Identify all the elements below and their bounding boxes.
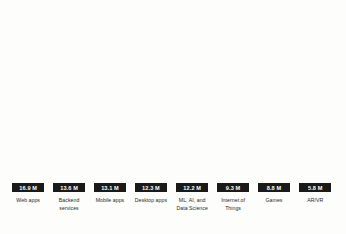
bar-value-label: 13.6 M — [60, 186, 78, 192]
bar[interactable]: 8.8 M — [258, 183, 290, 192]
category-label-line: Desktop apps — [129, 196, 172, 204]
category-label-line: Data Science — [171, 204, 214, 212]
bar-group: 8.8 M — [258, 183, 290, 192]
category-label-line: Things — [212, 204, 255, 212]
bar-group: 9.3 M — [217, 183, 249, 192]
bar-value-label: 16.9 M — [19, 186, 37, 192]
bar[interactable]: 13.6 M — [53, 183, 85, 192]
category-label-mobile-apps: Mobile apps — [89, 196, 132, 204]
bar-group: 13.1 M — [94, 183, 126, 192]
category-label-line: Backend — [48, 196, 91, 204]
bar[interactable]: 5.8 M — [299, 183, 331, 192]
bar[interactable]: 13.1 M — [94, 183, 126, 192]
bar-value-label: 9.3 M — [226, 186, 241, 192]
category-label-games: Games — [253, 196, 296, 204]
bar[interactable]: 16.9 M — [12, 183, 44, 192]
category-label-line: Web apps — [7, 196, 50, 204]
category-label-line: AR/VR — [294, 196, 337, 204]
category-label-desktop-apps: Desktop apps — [129, 196, 172, 204]
bar-value-label: 8.8 M — [267, 186, 282, 192]
bar-group: 16.9 M — [12, 183, 44, 192]
category-label-line: Mobile apps — [89, 196, 132, 204]
bar-value-label: 12.3 M — [142, 186, 160, 192]
category-label-line: Internet of — [212, 196, 255, 204]
category-label-backend-services: Backend services — [48, 196, 91, 212]
bar-value-label: 5.8 M — [308, 186, 323, 192]
bar-group: 12.2 M — [176, 183, 208, 192]
bar-chart: 16.9 M 13.6 M 13.1 M 12.3 M 12.2 M — [0, 0, 346, 234]
category-label-ml-ai-data-science: ML, AI, and Data Science — [171, 196, 214, 212]
bar-value-label: 12.2 M — [183, 186, 201, 192]
bar[interactable]: 12.3 M — [135, 183, 167, 192]
category-axis: Web apps Backend services Mobile apps De… — [12, 196, 342, 226]
category-label-internet-of-things: Internet of Things — [212, 196, 255, 212]
bar-group: 13.6 M — [53, 183, 85, 192]
category-label-line: services — [48, 204, 91, 212]
plot-area: 16.9 M 13.6 M 13.1 M 12.3 M 12.2 M — [12, 8, 342, 192]
bar[interactable]: 9.3 M — [217, 183, 249, 192]
category-label-web-apps: Web apps — [7, 196, 50, 204]
category-label-line: Games — [253, 196, 296, 204]
bar-group: 12.3 M — [135, 183, 167, 192]
bar-value-label: 13.1 M — [101, 186, 119, 192]
bar-group: 5.8 M — [299, 183, 331, 192]
category-label-line: ML, AI, and — [171, 196, 214, 204]
bar[interactable]: 12.2 M — [176, 183, 208, 192]
category-label-ar-vr: AR/VR — [294, 196, 337, 204]
